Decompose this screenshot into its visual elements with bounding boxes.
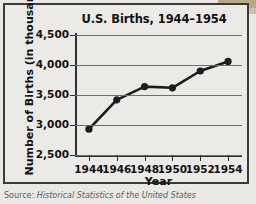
y-axis-tick-label: 2,500 <box>23 148 69 160</box>
data-point-marker <box>85 126 92 133</box>
chart-figure: U.S. Births, 1944–1954 Number of Births … <box>0 0 256 204</box>
data-point-marker <box>113 96 120 103</box>
x-axis-title: Year <box>75 175 242 188</box>
plot-area <box>75 35 242 155</box>
y-axis-tick-label: 4,500 <box>23 28 69 40</box>
y-axis-tick <box>70 125 75 126</box>
x-axis-tick <box>145 155 146 161</box>
y-axis-tick <box>70 155 75 156</box>
x-axis-tick-label: 1954 <box>210 163 246 175</box>
data-point-marker <box>197 67 204 74</box>
chart-frame: U.S. Births, 1944–1954 Number of Births … <box>3 3 249 184</box>
y-axis-tick-label: 4,000 <box>23 58 69 70</box>
source-note: Source: Historical Statistics of the Uni… <box>4 191 254 204</box>
y-axis-tick-label: 3,500 <box>23 88 69 100</box>
y-axis-tick <box>70 95 75 96</box>
source-text: Historical Statistics of the United Stat… <box>37 191 196 200</box>
data-point-marker <box>141 83 148 90</box>
gridline-y <box>75 125 242 126</box>
data-point-marker <box>224 58 231 65</box>
source-prefix: Source: <box>4 191 37 200</box>
gridline-y <box>75 35 242 36</box>
y-axis-tick <box>70 65 75 66</box>
data-point-marker <box>169 84 176 91</box>
x-axis-tick <box>228 155 229 161</box>
gridline-y <box>75 95 242 96</box>
x-axis-tick <box>172 155 173 161</box>
gridline-y <box>75 155 242 156</box>
chart-title: U.S. Births, 1944–1954 <box>61 12 247 26</box>
y-axis-tick-label: 3,000 <box>23 118 69 130</box>
gridline-y <box>75 65 242 66</box>
y-axis-tick-labels: 2,5003,0003,5004,0004,500 <box>21 5 69 186</box>
x-axis-tick <box>89 155 90 161</box>
y-axis-tick <box>70 35 75 36</box>
x-axis-tick <box>200 155 201 161</box>
x-axis-tick <box>117 155 118 161</box>
